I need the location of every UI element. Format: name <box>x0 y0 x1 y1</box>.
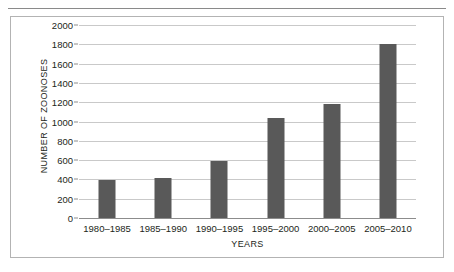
bar-group: 2005–2010 <box>360 25 416 218</box>
bar-group: 1985–1990 <box>135 25 191 218</box>
bar-group: 2000–2005 <box>304 25 360 218</box>
bar-group: 1990–1995 <box>191 25 247 218</box>
y-tick-label: 1000 <box>52 116 73 127</box>
y-tick-mark <box>74 102 78 103</box>
y-tick-mark <box>74 82 78 83</box>
x-tick-label: 1985–1990 <box>139 223 187 234</box>
bar <box>267 118 284 218</box>
y-tick-mark <box>74 179 78 180</box>
gridline <box>79 218 416 219</box>
y-tick-mark <box>74 140 78 141</box>
chart-frame: NUMBER OF ZOONOSES 020040060080010001200… <box>10 16 444 258</box>
y-tick-label: 0 <box>68 213 73 224</box>
y-tick-mark <box>74 160 78 161</box>
bar <box>211 161 228 218</box>
bar <box>155 178 172 218</box>
y-tick-mark <box>74 44 78 45</box>
bar-group: 1995–2000 <box>248 25 304 218</box>
bar-series: 1980–19851985–19901990–19951995–20002000… <box>79 25 416 218</box>
y-tick-label: 600 <box>57 155 73 166</box>
x-axis-title: YEARS <box>79 239 416 249</box>
x-tick-label: 1980–1985 <box>83 223 131 234</box>
bar-chart: NUMBER OF ZOONOSES 020040060080010001200… <box>11 17 445 259</box>
bar <box>323 104 340 218</box>
y-axis-title: NUMBER OF ZOONOSES <box>39 21 49 211</box>
bar-group: 1980–1985 <box>79 25 135 218</box>
y-tick-label: 1800 <box>52 39 73 50</box>
y-tick-label: 200 <box>57 193 73 204</box>
y-tick-label: 400 <box>57 174 73 185</box>
bar <box>379 44 396 218</box>
y-tick-label: 1400 <box>52 77 73 88</box>
x-tick-label: 2000–2005 <box>308 223 356 234</box>
y-tick-label: 800 <box>57 135 73 146</box>
figure: NUMBER OF ZOONOSES 020040060080010001200… <box>0 0 454 272</box>
plot-area: 0200400600800100012001400160018002000 19… <box>79 25 416 218</box>
y-tick-mark <box>74 198 78 199</box>
plot-right-edge <box>415 25 416 218</box>
top-rule-divider <box>8 8 446 9</box>
y-tick-mark <box>74 218 78 219</box>
y-tick-mark <box>74 63 78 64</box>
x-tick-label: 1995–2000 <box>252 223 300 234</box>
y-tick-mark <box>74 25 78 26</box>
y-tick-label: 2000 <box>52 20 73 31</box>
y-tick-label: 1200 <box>52 97 73 108</box>
y-tick-mark <box>74 121 78 122</box>
x-tick-label: 2005–2010 <box>364 223 412 234</box>
x-tick-label: 1990–1995 <box>196 223 244 234</box>
y-tick-label: 1600 <box>52 58 73 69</box>
bar <box>99 180 116 218</box>
